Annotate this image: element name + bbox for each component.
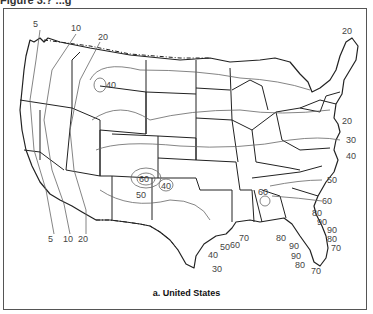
state-boundaries [20, 52, 340, 222]
contour-label: 70 [311, 266, 321, 276]
contour-label: 70 [331, 243, 341, 253]
contour-label: 80 [276, 233, 286, 243]
contour-label: 40 [106, 80, 116, 90]
contour-label: 90 [289, 241, 299, 251]
contour-label: 5 [33, 19, 38, 29]
contour-label: 50 [136, 190, 146, 200]
contour-label: 20 [342, 116, 352, 126]
contour-label: 30 [212, 264, 222, 274]
contour-label: 50 [220, 242, 230, 252]
contour-label: 70 [239, 233, 249, 243]
contour-label: 30 [346, 135, 356, 145]
contour-label: 10 [71, 23, 81, 33]
contour-label: 90 [317, 217, 327, 227]
contour-label: 40 [161, 181, 171, 191]
contour-label: 60 [322, 196, 332, 206]
contour-label: 50 [327, 175, 337, 185]
contour-label: 60 [139, 174, 149, 184]
contour-label: 60 [258, 187, 268, 197]
contour-label: 5 [48, 234, 53, 244]
contour-label: 80 [295, 260, 305, 270]
contour-label: 40 [346, 151, 356, 161]
map-caption: a. United States [0, 288, 373, 298]
contour-label: 20 [342, 26, 352, 36]
contour-label: 20 [98, 32, 108, 42]
contour-label: 60 [230, 240, 240, 250]
contour-label: 40 [208, 250, 218, 260]
contour-label: 20 [78, 234, 88, 244]
us-contour-map: 5 10 20 40 20 20 30 40 60 50 40 5 10 20 … [0, 0, 373, 314]
contour-lines [30, 30, 340, 234]
contour-labels: 5 10 20 40 20 20 30 40 60 50 40 5 10 20 … [33, 19, 356, 276]
contour-label: 10 [63, 234, 73, 244]
